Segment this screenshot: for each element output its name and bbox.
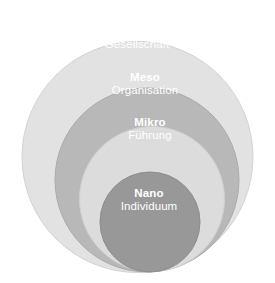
- nested-levels-diagram: Makro Gesellschaft Meso Organisation Mik…: [0, 0, 275, 283]
- circle-nano: [100, 172, 200, 272]
- nested-circles-graphic: [0, 0, 275, 283]
